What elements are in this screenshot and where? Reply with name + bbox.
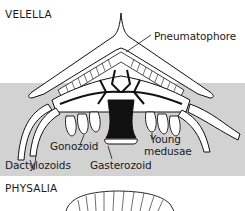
label-young: Young	[150, 133, 181, 145]
label-gonozoid: Gonozoid	[50, 140, 98, 152]
section-title-physalia: PHYSALIA	[5, 182, 57, 194]
label-medusae: medusae	[144, 145, 192, 157]
label-dactylozoids: Dactylozoids	[5, 159, 71, 171]
label-gasterozoid: Gasterozoid	[90, 159, 152, 171]
label-pneumatophore: Pneumatophore	[154, 30, 236, 42]
section-title-velella: VELELLA	[5, 8, 52, 20]
